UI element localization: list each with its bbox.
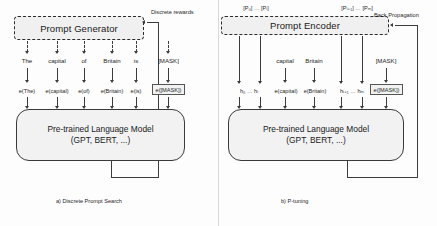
backprop-arrowhead	[390, 23, 393, 27]
masked-embedding-box: e([MASK])	[370, 84, 403, 95]
prompt-generator-label: Prompt Generator	[40, 23, 118, 34]
feedback-hline-top	[147, 22, 159, 23]
tok-emb-arrowhead-4	[110, 80, 114, 83]
model-subtitle: (GPT, BERT, ...)	[71, 135, 130, 147]
tok-emb-arrowhead-2	[312, 80, 316, 83]
tok-emb-arrowhead-1	[283, 80, 287, 83]
pretrained-language-model-box: Pre-trained Language Model (GPT, BERT, .…	[16, 109, 185, 161]
masked-embedding-box: e([MASK])	[152, 84, 185, 95]
tok-emb-arrowhead-1	[25, 80, 29, 83]
prompt-generator-box: Prompt Generator	[14, 16, 144, 40]
backprop-hline-bottom	[347, 177, 418, 178]
feedback-vline-stub	[111, 160, 112, 178]
enc-h-arrow-4	[362, 36, 363, 82]
gen-arrowhead-2	[55, 51, 59, 54]
prompt-index-label-right: [Pᵢ₊₁] … [Pₘ]	[326, 4, 388, 12]
token-label: capital	[42, 57, 72, 65]
model-title: Pre-trained Language Model	[263, 124, 369, 136]
gen-arrowhead-3	[82, 51, 86, 54]
pretrained-language-model-box: Pre-trained Language Model (GPT, BERT, .…	[228, 109, 404, 161]
model-subtitle: (GPT, BERT, ...)	[286, 135, 345, 147]
enc-h-arrow-2	[260, 36, 261, 82]
enc-h-arrowhead-1	[237, 81, 241, 84]
enc-h-arrowhead-3	[339, 81, 343, 84]
embedding-label: e([MASK])	[156, 86, 182, 94]
enc-h-arrowhead-4	[360, 81, 364, 84]
backprop-vline-stub	[347, 160, 348, 178]
tok-emb-arrowhead-2	[55, 80, 59, 83]
tok-emb-arrowhead-3	[384, 80, 388, 83]
token-label: [MASK]	[368, 57, 404, 65]
token-label: Britain	[296, 57, 332, 65]
backprop-vline	[417, 25, 418, 177]
token-label: [MASK]	[153, 57, 184, 65]
enc-h-arrow-3	[341, 36, 342, 82]
prompt-encoder-box: Prompt Encoder	[221, 16, 389, 35]
token-label: The	[12, 57, 42, 65]
backprop-hline-top	[395, 25, 418, 26]
panel-p-tuning: [P₀] … [Pᵢ] [Pᵢ₊₁] … [Pₘ] Prompt Encoder…	[219, 0, 437, 226]
feedback-arrowhead	[142, 20, 145, 24]
enc-h-arrow-1	[239, 36, 240, 82]
enc-h-arrowhead-2	[258, 81, 262, 84]
prompt-encoder-label: Prompt Encoder	[270, 20, 340, 31]
back-propagation-label: Back Propagation	[374, 12, 419, 18]
gen-arrowhead-6	[166, 51, 170, 54]
model-title: Pre-trained Language Model	[47, 124, 153, 136]
embedding-label: e(is)	[123, 87, 149, 95]
tok-emb-arrowhead-5	[134, 80, 138, 83]
panel-discrete-prompt-search: Prompt Generator Discrete rewards The ca…	[0, 0, 218, 226]
gen-arrowhead-5	[134, 51, 138, 54]
tok-emb-arrowhead-6	[166, 80, 170, 83]
gen-arrowhead-1	[25, 51, 29, 54]
hidden-state-label-right: hᵢ₊₁ … hₘ	[328, 87, 376, 95]
hidden-state-label-left: h₀ … hᵢ	[225, 87, 273, 95]
panel-caption: a) Discrete Prompt Search	[56, 198, 122, 204]
gen-arrowhead-4	[110, 51, 114, 54]
discrete-rewards-label: Discrete rewards	[151, 9, 194, 15]
token-label: of	[69, 57, 99, 65]
tok-emb-arrowhead-3	[82, 80, 86, 83]
figure-root: Prompt Generator Discrete rewards The ca…	[0, 0, 437, 226]
panel-caption: b) P-tuning	[281, 198, 308, 204]
embedding-label: e([MASK])	[374, 86, 400, 94]
token-label: is	[121, 57, 151, 65]
prompt-index-label-left: [P₀] … [Pᵢ]	[225, 4, 287, 12]
feedback-hline-bottom	[111, 177, 159, 178]
